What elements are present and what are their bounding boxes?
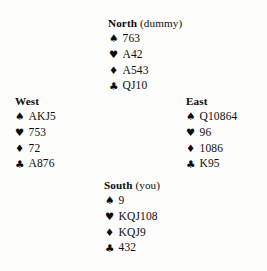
hand-east-hearts: ♥ 96 <box>186 125 237 141</box>
hand-north-hearts-cards: A42 <box>120 47 143 63</box>
bridge-hand-diagram: North (dummy) ♠ 763 ♥ A42 ♦ A543 ♣ QJ10 … <box>0 0 267 271</box>
hand-east-clubs-cards: K95 <box>197 156 220 172</box>
hand-south-spades-cards: 9 <box>116 193 124 209</box>
hand-north: North (dummy) ♠ 763 ♥ A42 ♦ A543 ♣ QJ10 <box>108 17 182 94</box>
heart-icon: ♥ <box>109 47 120 63</box>
hand-north-suits: ♠ 763 ♥ A42 ♦ A543 ♣ QJ10 <box>109 31 182 94</box>
hand-north-clubs-cards: QJ10 <box>120 78 147 94</box>
hand-north-spades-cards: 763 <box>120 31 140 47</box>
hand-south-diamonds-cards: KQJ9 <box>116 225 146 241</box>
club-icon: ♣ <box>15 157 26 173</box>
diamond-icon: ♦ <box>15 141 26 157</box>
hand-west-diamonds: ♦ 72 <box>15 141 56 157</box>
hand-south-suits: ♠ 9 ♥ KQJ108 ♦ KQJ9 ♣ 432 <box>105 193 160 256</box>
hand-west: West ♠ AKJ5 ♥ 753 ♦ 72 ♣ A876 <box>15 95 56 172</box>
hand-east-spades: ♠ Q10864 <box>186 109 237 125</box>
club-icon: ♣ <box>105 241 116 257</box>
spade-icon: ♠ <box>105 193 116 209</box>
hand-west-hearts: ♥ 753 <box>15 125 56 141</box>
hand-east-clubs: ♣ K95 <box>186 156 237 172</box>
hand-south-qualifier: (you) <box>133 179 161 191</box>
club-icon: ♣ <box>109 79 120 95</box>
hand-north-diamonds: ♦ A543 <box>109 63 182 79</box>
hand-north-diamonds-cards: A543 <box>120 63 149 79</box>
spade-icon: ♠ <box>186 109 197 125</box>
hand-south: South (you) ♠ 9 ♥ KQJ108 ♦ KQJ9 ♣ 432 <box>104 179 160 256</box>
club-icon: ♣ <box>186 157 197 173</box>
hand-north-clubs: ♣ QJ10 <box>109 78 182 94</box>
hand-south-clubs-cards: 432 <box>116 240 136 256</box>
hand-south-hearts: ♥ KQJ108 <box>105 209 160 225</box>
hand-south-label: South (you) <box>104 179 160 192</box>
spade-icon: ♠ <box>109 31 120 47</box>
hand-south-spades: ♠ 9 <box>105 193 160 209</box>
hand-west-suits: ♠ AKJ5 ♥ 753 ♦ 72 ♣ A876 <box>15 109 56 172</box>
hand-west-label: West <box>15 95 56 108</box>
heart-icon: ♥ <box>186 125 197 141</box>
hand-west-diamonds-cards: 72 <box>26 141 40 157</box>
diamond-icon: ♦ <box>109 63 120 79</box>
hand-east-hearts-cards: 96 <box>197 125 211 141</box>
hand-east-spades-cards: Q10864 <box>197 109 237 125</box>
hand-west-seat: West <box>15 95 39 107</box>
hand-north-hearts: ♥ A42 <box>109 47 182 63</box>
heart-icon: ♥ <box>105 209 116 225</box>
heart-icon: ♥ <box>15 125 26 141</box>
hand-north-label: North (dummy) <box>108 17 182 30</box>
hand-east: East ♠ Q10864 ♥ 96 ♦ 1086 ♣ K95 <box>186 95 237 172</box>
hand-south-clubs: ♣ 432 <box>105 240 160 256</box>
hand-west-hearts-cards: 753 <box>26 125 46 141</box>
hand-west-clubs-cards: A876 <box>26 156 55 172</box>
diamond-icon: ♦ <box>186 141 197 157</box>
diamond-icon: ♦ <box>105 225 116 241</box>
hand-east-label: East <box>186 95 237 108</box>
hand-north-seat: North <box>108 17 137 29</box>
hand-west-spades: ♠ AKJ5 <box>15 109 56 125</box>
hand-east-diamonds: ♦ 1086 <box>186 141 237 157</box>
hand-east-suits: ♠ Q10864 ♥ 96 ♦ 1086 ♣ K95 <box>186 109 237 172</box>
hand-east-diamonds-cards: 1086 <box>197 141 223 157</box>
hand-north-qualifier: (dummy) <box>137 17 182 29</box>
hand-south-hearts-cards: KQJ108 <box>116 209 158 225</box>
hand-north-spades: ♠ 763 <box>109 31 182 47</box>
hand-west-clubs: ♣ A876 <box>15 156 56 172</box>
hand-south-diamonds: ♦ KQJ9 <box>105 225 160 241</box>
spade-icon: ♠ <box>15 109 26 125</box>
hand-south-seat: South <box>104 179 133 191</box>
hand-east-seat: East <box>186 95 208 107</box>
hand-west-spades-cards: AKJ5 <box>26 109 56 125</box>
